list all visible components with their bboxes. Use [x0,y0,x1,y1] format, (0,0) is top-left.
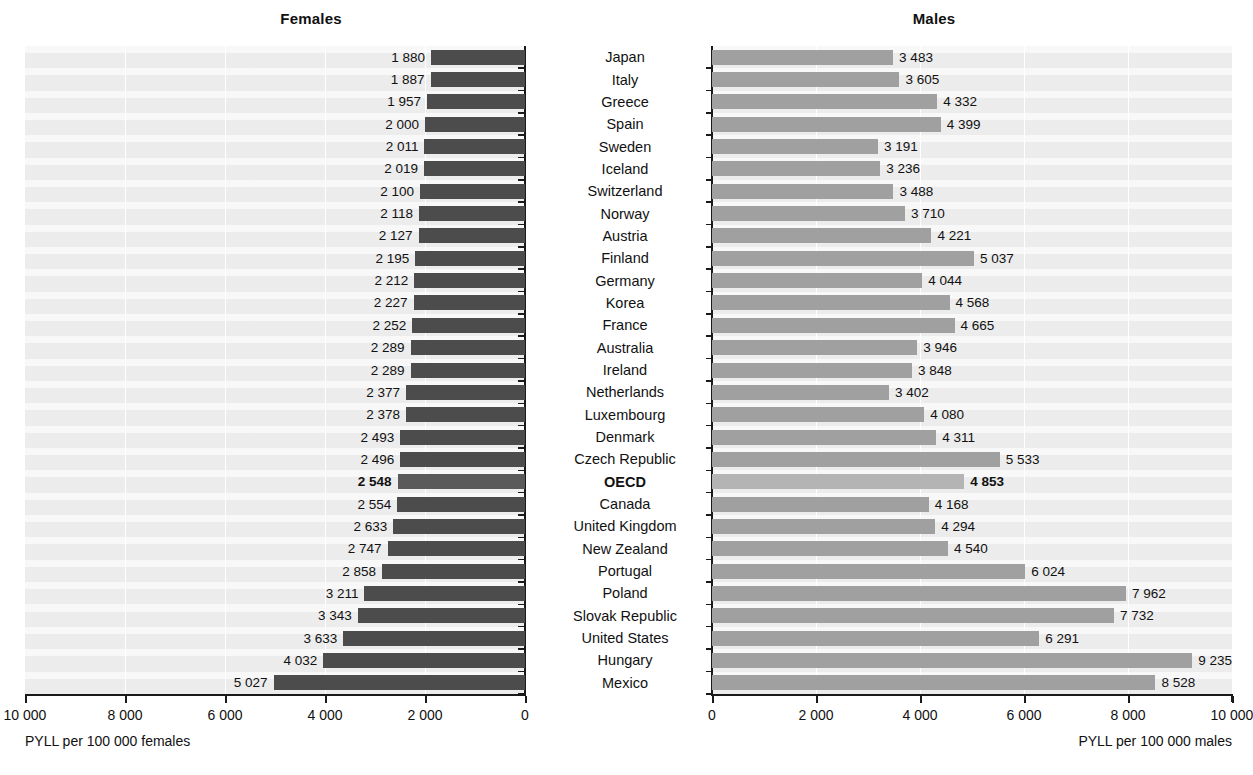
tick-label-female: 2 000 [407,707,442,723]
category-tick [706,157,713,159]
bar-female-greece [427,94,525,109]
value-label-female: 2 858 [0,564,376,579]
value-label-female: 1 880 [0,50,425,65]
bar-female-korea [414,295,525,310]
axis-tick [1232,696,1234,703]
category-label-netherlands: Netherlands [545,384,705,400]
clipped-header-text [0,0,1245,2]
value-label-male: 3 191 [884,139,918,154]
category-tick [706,246,713,248]
category-tick [518,112,525,114]
value-label-male: 4 221 [937,228,971,243]
category-tick [518,67,525,69]
category-tick [706,268,713,270]
value-label-male: 6 024 [1031,564,1065,579]
category-tick [706,626,713,628]
category-tick [518,224,525,226]
axis-tick [325,696,327,703]
category-tick [518,179,525,181]
females-value-axis [25,694,526,696]
value-label-female: 3 211 [0,586,358,601]
bar-male-australia [712,340,917,355]
panel-title-females: Females [0,10,622,27]
category-label-mexico: Mexico [545,675,705,691]
value-label-male: 4 853 [970,474,1004,489]
category-label-denmark: Denmark [545,429,705,445]
axis-tick [525,696,527,703]
bar-male-italy [712,72,899,87]
value-label-male: 3 605 [905,72,939,87]
bar-male-sweden [712,139,878,154]
category-tick [518,425,525,427]
bar-female-japan [431,50,525,65]
axis-tick [1024,696,1026,703]
value-label-male: 3 402 [895,385,929,400]
category-tick [518,201,525,203]
value-label-female: 2 554 [0,497,391,512]
females-axis-caption: PYLL per 100 000 females [25,733,190,749]
bar-male-japan [712,50,893,65]
bar-male-hungary [712,653,1192,668]
category-label-italy: Italy [545,72,705,88]
axis-tick [225,696,227,703]
bar-female-france [412,318,525,333]
tick-label-female: 8 000 [107,707,142,723]
bar-female-ireland [411,363,525,378]
category-tick [706,648,713,650]
category-tick [706,492,713,494]
value-label-male: 4 540 [954,541,988,556]
value-label-male: 5 533 [1006,452,1040,467]
value-label-male: 4 399 [947,117,981,132]
value-label-female: 2 100 [0,184,414,199]
category-label-ireland: Ireland [545,362,705,378]
bar-male-spain [712,117,941,132]
bar-female-new-zealand [388,541,525,556]
bar-male-canada [712,497,929,512]
males-chart: 3 4833 6054 3324 3993 1913 2363 4883 710… [705,46,1245,694]
tick-label-male: 6 000 [1006,707,1041,723]
category-tick [518,648,525,650]
category-tick [518,268,525,270]
category-label-france: France [545,317,705,333]
bar-female-poland [364,586,525,601]
category-label-sweden: Sweden [545,139,705,155]
axis-tick [425,696,427,703]
males-axis-caption: PYLL per 100 000 males [1078,733,1232,749]
category-tick [706,380,713,382]
axis-tick [25,696,27,703]
bar-male-austria [712,228,931,243]
category-label-luxembourg: Luxembourg [545,407,705,423]
bar-male-slovak-republic [712,608,1114,623]
bar-male-united-states [712,631,1039,646]
value-label-male: 4 311 [942,430,975,445]
value-label-male: 7 962 [1132,586,1166,601]
bar-male-luxembourg [712,407,924,422]
value-label-female: 2 633 [0,519,387,534]
category-label-norway: Norway [545,206,705,222]
bar-female-denmark [400,430,525,445]
category-tick [706,134,713,136]
category-tick [706,537,713,539]
category-tick [518,134,525,136]
bar-male-germany [712,273,922,288]
bar-male-new-zealand [712,541,948,556]
category-label-korea: Korea [545,295,705,311]
tick-label-male: 2 000 [798,707,833,723]
gridline [1128,46,1129,694]
category-label-japan: Japan [545,49,705,65]
bar-female-canada [397,497,525,512]
value-label-female: 1 887 [0,72,425,87]
tick-label-male: 0 [708,707,716,723]
bar-female-netherlands [406,385,525,400]
bar-female-italy [431,72,525,87]
axis-tick [712,696,714,703]
bar-female-portugal [382,564,525,579]
value-label-male: 4 665 [961,318,995,333]
bar-male-czech-republic [712,452,1000,467]
bar-female-iceland [424,161,525,176]
category-label-new-zealand: New Zealand [545,541,705,557]
category-label-column: JapanItalyGreeceSpainSwedenIcelandSwitze… [545,46,705,694]
category-tick [706,201,713,203]
category-tick [518,470,525,472]
category-label-greece: Greece [545,94,705,110]
